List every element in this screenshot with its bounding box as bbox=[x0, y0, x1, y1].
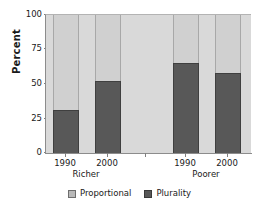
y-axis-tick-labels: 100 75 50 25 0 bbox=[20, 0, 42, 214]
bar-chart-figure: Percent 100 75 50 25 0 bbox=[0, 0, 259, 214]
segment-plurality-poorer-1990 bbox=[173, 63, 199, 153]
x-tick-label-richer-2000: 2000 bbox=[87, 158, 127, 168]
legend-label-proportional: Proportional bbox=[80, 189, 131, 198]
segment-proportional-poorer-1990 bbox=[173, 15, 199, 63]
plot-area bbox=[45, 14, 251, 153]
x-group-label-richer: Richer bbox=[56, 169, 116, 179]
segment-plurality-richer-2000 bbox=[95, 81, 121, 153]
segment-plurality-poorer-2000 bbox=[215, 73, 241, 153]
bar-richer-2000 bbox=[95, 15, 121, 153]
y-tick-label-50: 50 bbox=[22, 79, 42, 87]
segment-plurality-richer-1990 bbox=[53, 110, 79, 153]
x-tick-mark-richer-1990 bbox=[65, 153, 66, 157]
y-tick-label-100: 100 bbox=[22, 10, 42, 18]
legend-item-plurality: Plurality bbox=[144, 189, 191, 198]
segment-proportional-poorer-2000 bbox=[215, 15, 241, 73]
y-tick-label-0: 0 bbox=[22, 148, 42, 156]
x-tick-mark-poorer-1990 bbox=[185, 153, 186, 157]
legend-swatch-plurality-icon bbox=[144, 190, 152, 198]
segment-proportional-richer-1990 bbox=[53, 15, 79, 110]
legend-label-plurality: Plurality bbox=[156, 189, 191, 198]
bar-richer-1990 bbox=[53, 15, 79, 153]
segment-proportional-richer-2000 bbox=[95, 15, 121, 81]
x-axis-line bbox=[45, 153, 252, 154]
bar-poorer-1990 bbox=[173, 15, 199, 153]
x-tick-mark-richer-2000 bbox=[107, 153, 108, 157]
legend-swatch-proportional-icon bbox=[68, 190, 76, 198]
legend-item-proportional: Proportional bbox=[68, 189, 131, 198]
chart-legend: Proportional Plurality bbox=[0, 189, 259, 198]
x-tick-label-poorer-2000: 2000 bbox=[207, 158, 247, 168]
y-tick-label-25: 25 bbox=[22, 114, 42, 122]
x-tick-mark-midpoint bbox=[145, 153, 146, 157]
x-group-label-poorer: Poorer bbox=[176, 169, 236, 179]
x-tick-label-richer-1990: 1990 bbox=[45, 158, 85, 168]
y-tick-label-75: 75 bbox=[22, 44, 42, 52]
bar-poorer-2000 bbox=[215, 15, 241, 153]
x-tick-mark-poorer-2000 bbox=[227, 153, 228, 157]
x-tick-label-poorer-1990: 1990 bbox=[165, 158, 205, 168]
